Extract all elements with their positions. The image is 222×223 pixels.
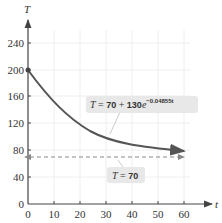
y-axis-label: T: [24, 3, 31, 15]
svg-text:20: 20: [75, 208, 87, 220]
svg-text:0: 0: [19, 198, 25, 210]
svg-text:10: 10: [49, 208, 61, 220]
svg-text:50: 50: [153, 208, 165, 220]
svg-text:T = 70: T = 70: [112, 170, 138, 181]
svg-text:160: 160: [8, 90, 25, 102]
y-tick-labels: 0 40 80 120 160 200 240: [8, 37, 25, 210]
equation-label: T = 70 + 130e−0.04855t: [86, 96, 198, 113]
svg-text:80: 80: [13, 144, 25, 156]
svg-text:0: 0: [25, 208, 31, 220]
svg-text:40: 40: [13, 171, 25, 183]
chart: T t 0 40 80 120 160 200 240 0 10 20 30 4…: [0, 0, 222, 223]
svg-text:60: 60: [179, 208, 191, 220]
x-axis-label: t: [215, 198, 219, 210]
x-tick-labels: 0 10 20 30 40 50 60: [25, 208, 190, 220]
svg-text:200: 200: [8, 64, 25, 76]
svg-text:30: 30: [101, 208, 113, 220]
svg-text:40: 40: [127, 208, 139, 220]
initial-point: [26, 68, 31, 73]
svg-text:240: 240: [8, 37, 25, 49]
asymptote-label: T = 70: [107, 167, 145, 183]
svg-text:120: 120: [8, 117, 25, 129]
